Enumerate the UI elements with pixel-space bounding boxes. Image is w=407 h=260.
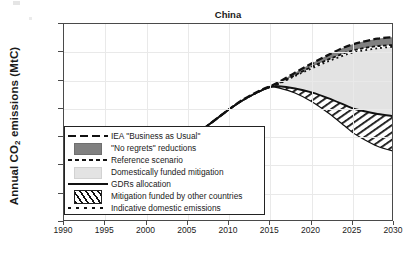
scan-artifact xyxy=(13,1,20,5)
legend-marker xyxy=(68,207,108,209)
x-tick-mark xyxy=(228,221,229,225)
x-tick-mark xyxy=(269,221,270,225)
legend-label: IEA "Business as Usual" xyxy=(111,132,200,141)
legend-swatch-dotted-icon xyxy=(68,202,108,214)
legend-marker xyxy=(68,159,108,161)
legend-item-5[interactable]: Mitigation funded by other countries xyxy=(65,190,264,202)
legend-item-1[interactable]: "No regrets" reductions xyxy=(65,142,264,154)
legend-swatch-light-swatch-icon xyxy=(68,166,108,178)
y-axis-label-prefix: Annual CO xyxy=(8,145,20,205)
x-tick-mark xyxy=(393,221,394,225)
legend-swatch-dark-swatch-icon xyxy=(68,142,108,154)
legend-label: "No regrets" reductions xyxy=(111,144,196,153)
x-tick-mark xyxy=(63,221,64,225)
legend-swatch-hatch-icon xyxy=(68,190,108,202)
legend-item-2[interactable]: Reference scenario xyxy=(65,154,264,166)
y-axis-label-suffix: emissions (MtC) xyxy=(8,47,20,141)
x-tick-mark xyxy=(104,221,105,225)
x-tick-label: 2015 xyxy=(249,226,289,235)
legend-swatch-solid-icon xyxy=(68,178,108,190)
x-tick-mark xyxy=(352,221,353,225)
x-tick-label: 2005 xyxy=(167,226,207,235)
x-tick-mark xyxy=(187,221,188,225)
legend-marker xyxy=(68,135,108,137)
legend-label: Domestically funded mitigation xyxy=(111,168,224,177)
legend-label: Reference scenario xyxy=(111,156,183,165)
x-tick-mark xyxy=(146,221,147,225)
legend-item-3[interactable]: Domestically funded mitigation xyxy=(65,166,264,178)
x-tick-label: 1990 xyxy=(43,226,83,235)
x-tick-label: 2025 xyxy=(332,226,372,235)
x-tick-mark xyxy=(311,221,312,225)
legend-item-4[interactable]: GDRs allocation xyxy=(65,178,264,190)
legend-label: GDRs allocation xyxy=(111,180,171,189)
x-tick-label: 2020 xyxy=(291,226,331,235)
gridline-vertical xyxy=(353,24,354,220)
gridline-horizontal xyxy=(64,81,392,82)
legend-label: Mitigation funded by other countries xyxy=(111,192,242,201)
x-tick-label: 1995 xyxy=(84,226,124,235)
legend-swatch-long-dash-icon xyxy=(68,130,108,142)
legend-item-6[interactable]: Indicative domestic emissions xyxy=(65,202,264,214)
gridline-vertical xyxy=(312,24,313,220)
legend-swatch-short-dash-icon xyxy=(68,154,108,166)
chart-title: China xyxy=(63,9,393,20)
x-tick-label: 2010 xyxy=(208,226,248,235)
y-axis-label-subscript: 2 xyxy=(13,140,22,145)
legend-marker xyxy=(68,183,108,185)
gridline-horizontal xyxy=(64,109,392,110)
y-axis-label: Annual CO2 emissions (MtC) xyxy=(8,26,20,226)
chart-legend: IEA "Business as Usual""No regrets" redu… xyxy=(64,126,265,215)
legend-label: Indicative domestic emissions xyxy=(111,204,221,213)
x-tick-label: 2030 xyxy=(373,226,407,235)
gridline-horizontal xyxy=(64,52,392,53)
legend-item-0[interactable]: IEA "Business as Usual" xyxy=(65,130,264,142)
x-tick-label: 2000 xyxy=(126,226,166,235)
scan-artifact xyxy=(29,17,32,20)
gridline-vertical xyxy=(270,24,271,220)
